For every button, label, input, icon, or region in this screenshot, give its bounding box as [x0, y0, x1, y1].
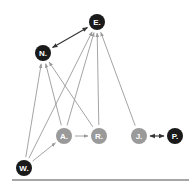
- edge-j-e: [101, 32, 135, 125]
- nodes-layer: E.N.A.R.J.P.W.: [16, 14, 183, 176]
- causal-diagram: E.N.A.R.J.P.W.: [0, 0, 194, 193]
- node-label: N.: [39, 49, 47, 58]
- node-label: A.: [60, 132, 68, 141]
- edge-a-n: [46, 64, 62, 126]
- edge-r-n: [49, 62, 93, 127]
- edge-n-e: [53, 27, 88, 47]
- edge-w-n: [26, 64, 41, 157]
- edge-a-e: [67, 33, 94, 126]
- edge-r-e: [97, 33, 99, 125]
- node-e: E.: [89, 14, 105, 30]
- node-n: N.: [35, 45, 51, 61]
- node-a: A.: [56, 128, 72, 144]
- node-label: P.: [172, 132, 179, 141]
- node-j: J.: [131, 128, 147, 144]
- node-label: J.: [136, 132, 143, 141]
- node-label: R.: [95, 132, 103, 141]
- node-label: W.: [19, 164, 28, 173]
- node-p: P.: [167, 128, 183, 144]
- node-w: W.: [16, 160, 32, 176]
- node-label: E.: [93, 18, 101, 27]
- edge-w-a: [33, 143, 56, 161]
- node-r: R.: [91, 128, 107, 144]
